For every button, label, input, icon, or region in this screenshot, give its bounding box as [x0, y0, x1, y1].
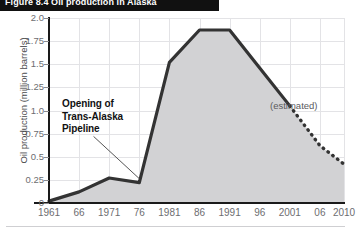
y-axis-tick-mark — [44, 180, 49, 181]
bottom-divider — [6, 226, 345, 227]
y-axis-tick-mark — [44, 87, 49, 88]
y-axis-tick-mark — [44, 18, 49, 19]
y-axis-tick-mark — [44, 134, 49, 135]
y-axis-tick-mark — [44, 41, 49, 42]
y-axis-tick-mark — [44, 111, 49, 112]
y-axis-tick-mark — [44, 203, 49, 204]
annotation-pipeline-label: Opening of Trans-Alaska Pipeline — [62, 98, 123, 136]
x-axis-line — [34, 202, 345, 204]
x-axis-tick-label: 2010 — [322, 207, 360, 218]
figure-title-bar: Figure 8.4 Oil production in Alaska — [0, 0, 219, 11]
annotation-estimated-label: (estimated) — [270, 100, 318, 111]
y-axis-tick-label: 2.0 — [0, 12, 44, 23]
y-axis-tick-mark — [44, 64, 49, 65]
y-axis-tick-label: 0.25 — [0, 174, 44, 185]
gridline-vertical — [344, 18, 345, 203]
y-axis-tick-mark — [44, 157, 49, 158]
figure-title: Figure 8.4 Oil production in Alaska — [5, 0, 157, 8]
annotation-leader-line — [94, 136, 140, 178]
y-axis-title: Oil production (million barrels) — [18, 31, 29, 171]
